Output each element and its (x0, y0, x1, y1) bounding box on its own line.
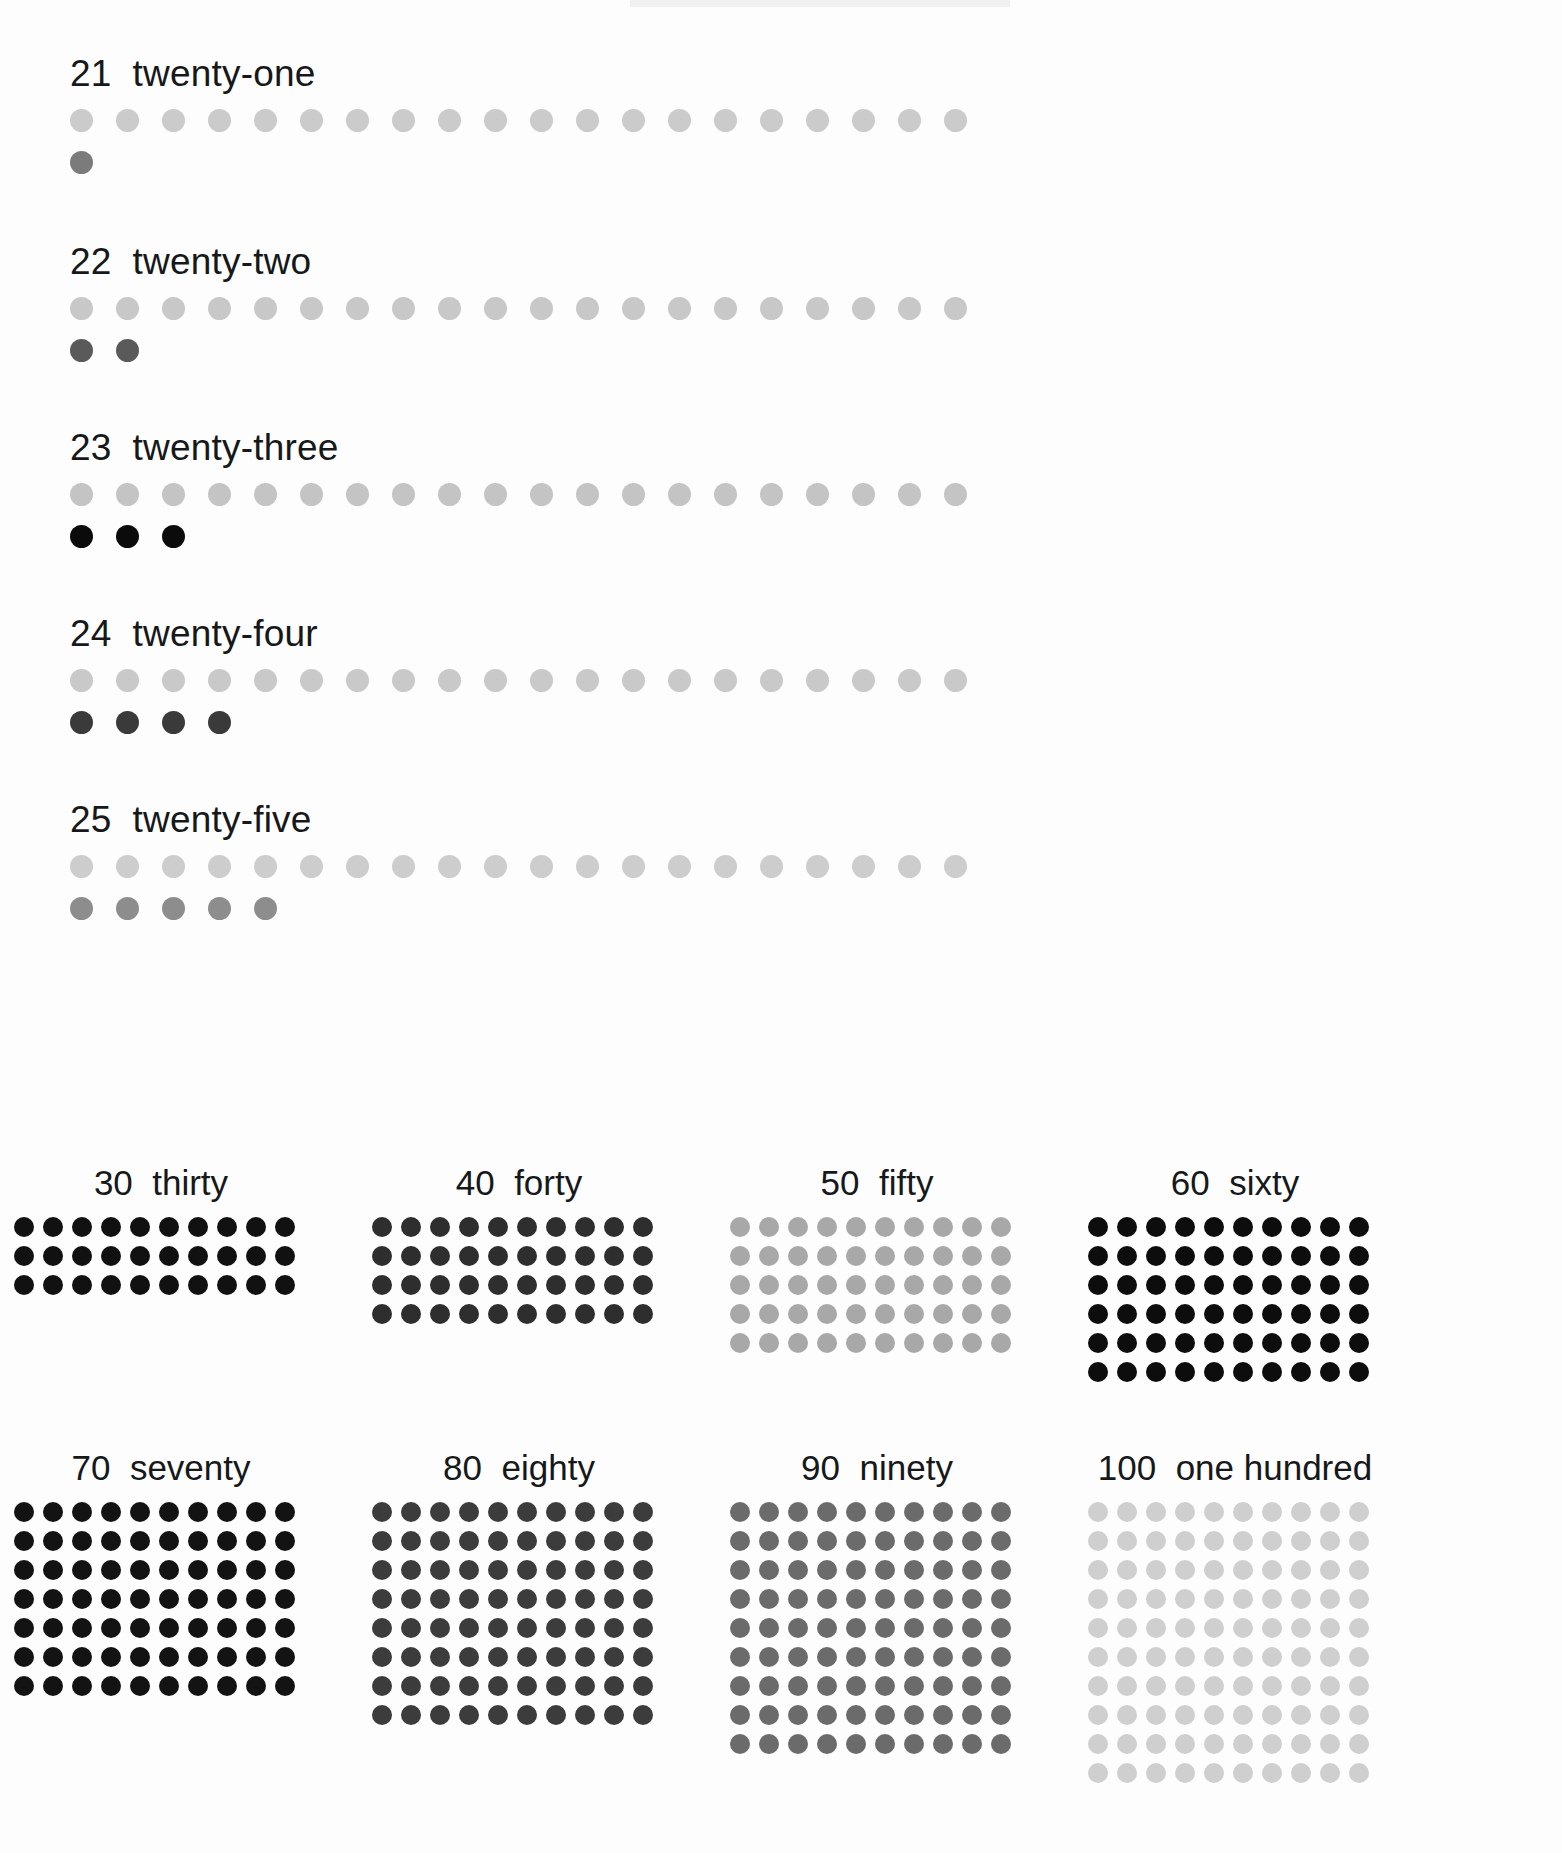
count-dot (1349, 1246, 1369, 1266)
count-dot (1117, 1763, 1137, 1783)
decade-grid-row (14, 1531, 358, 1560)
count-dot (392, 669, 415, 692)
count-dot (1233, 1705, 1253, 1725)
decade-grid-row (730, 1304, 1074, 1333)
count-dot (933, 1560, 953, 1580)
count-dot (430, 1618, 450, 1638)
count-dot (806, 483, 829, 506)
count-dot (788, 1275, 808, 1295)
count-dot (188, 1676, 208, 1696)
count-dot (875, 1217, 895, 1237)
count-dot (488, 1560, 508, 1580)
count-dot (275, 1589, 295, 1609)
count-dot (401, 1647, 421, 1667)
count-dot (788, 1676, 808, 1696)
count-dot (852, 109, 875, 132)
count-dot (70, 855, 93, 878)
count-dot (1291, 1362, 1311, 1382)
count-dot (633, 1560, 653, 1580)
count-dot (438, 297, 461, 320)
count-dot (1146, 1618, 1166, 1638)
count-dot (962, 1531, 982, 1551)
count-dot (488, 1304, 508, 1324)
count-dot (546, 1589, 566, 1609)
count-dot (1349, 1333, 1369, 1353)
count-dot (14, 1647, 34, 1667)
count-dot (188, 1560, 208, 1580)
count-dot (1320, 1589, 1340, 1609)
count-dot (904, 1502, 924, 1522)
decade-title: 80 eighty (366, 1450, 716, 1485)
count-dot (875, 1734, 895, 1754)
decade-grid-row (730, 1647, 1074, 1676)
count-dot (1320, 1647, 1340, 1667)
count-dot (1320, 1304, 1340, 1324)
decade-dot-grid (1082, 1217, 1432, 1391)
count-dot (576, 483, 599, 506)
count-dot (730, 1705, 750, 1725)
count-dot (1175, 1217, 1195, 1237)
number-row-label: 23 twenty-three (70, 429, 990, 466)
count-dot (116, 339, 139, 362)
count-dot (208, 483, 231, 506)
count-dot (604, 1589, 624, 1609)
count-dot (633, 1647, 653, 1667)
count-dot (275, 1647, 295, 1667)
count-dot (159, 1560, 179, 1580)
count-dot (43, 1647, 63, 1667)
count-dot (846, 1705, 866, 1725)
count-dot (817, 1560, 837, 1580)
count-dot (546, 1502, 566, 1522)
count-dot (1349, 1217, 1369, 1237)
count-dot (788, 1618, 808, 1638)
count-dot (875, 1560, 895, 1580)
count-dot (116, 297, 139, 320)
decade-title: 90 ninety (724, 1450, 1074, 1485)
count-dot (1175, 1304, 1195, 1324)
count-dot (962, 1705, 982, 1725)
count-dot (904, 1647, 924, 1667)
count-dot (101, 1531, 121, 1551)
count-dot (875, 1333, 895, 1353)
count-dot (962, 1734, 982, 1754)
count-dot (1320, 1618, 1340, 1638)
count-dot (1175, 1763, 1195, 1783)
decade-title: 40 forty (366, 1165, 716, 1200)
count-dot (991, 1676, 1011, 1696)
dot-row-base (70, 669, 990, 692)
count-dot (788, 1589, 808, 1609)
count-dot (788, 1217, 808, 1237)
count-dot (546, 1531, 566, 1551)
count-dot (459, 1304, 479, 1324)
count-dot (430, 1246, 450, 1266)
count-dot (904, 1589, 924, 1609)
count-dot (1204, 1647, 1224, 1667)
count-dot (933, 1647, 953, 1667)
decade-block: 40 forty (358, 1165, 716, 1333)
count-dot (1349, 1705, 1369, 1725)
decade-grid-row (372, 1705, 716, 1734)
number-row: 21 twenty-one (0, 55, 990, 174)
count-dot (760, 855, 783, 878)
count-dot (43, 1531, 63, 1551)
count-dot (217, 1531, 237, 1551)
count-dot (962, 1589, 982, 1609)
decade-title: 50 fifty (724, 1165, 1074, 1200)
count-dot (1320, 1560, 1340, 1580)
count-dot (788, 1705, 808, 1725)
count-dot (962, 1333, 982, 1353)
count-dot (14, 1246, 34, 1266)
decade-block: 90 ninety (716, 1450, 1074, 1763)
decade-block: 50 fifty (716, 1165, 1074, 1362)
count-dot (246, 1560, 266, 1580)
count-dot (875, 1275, 895, 1295)
count-dot (962, 1676, 982, 1696)
count-dot (944, 109, 967, 132)
count-dot (622, 855, 645, 878)
count-dot (275, 1618, 295, 1638)
count-dot (459, 1647, 479, 1667)
count-dot (275, 1676, 295, 1696)
count-dot (130, 1647, 150, 1667)
count-dot (1204, 1589, 1224, 1609)
count-dot (760, 109, 783, 132)
